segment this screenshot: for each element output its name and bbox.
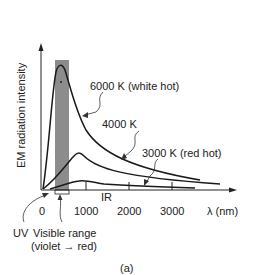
leader-6000k: [85, 92, 103, 115]
curve-3000k: [50, 181, 195, 189]
leader-3000k-arrow-icon: [144, 179, 149, 186]
ir-label: IR: [101, 191, 112, 203]
leader-4000k-arrow-icon: [121, 153, 127, 160]
visible-range-label: Visible range: [33, 227, 96, 239]
visible-range-sublabel: (violet → red): [31, 240, 97, 252]
leader-uv-arrow-icon: [42, 193, 49, 198]
tick-label-2000: 2000: [117, 205, 141, 217]
uv-label: UV: [13, 227, 28, 239]
peak-dot: [60, 81, 62, 83]
leader-6000k-arrow-icon: [82, 112, 88, 118]
leader-visible-arrow-icon: [58, 194, 63, 200]
tick-label-1000: 1000: [74, 205, 98, 217]
label-6000k: 6000 K (white hot): [90, 80, 179, 92]
tick-label-0: 0: [39, 205, 45, 217]
y-axis-label: EM radiation intensity: [15, 63, 27, 168]
y-axis-arrow-icon: [39, 43, 44, 51]
label-3000k: 3000 K (red hot): [142, 147, 222, 159]
visible-bracket: [55, 190, 69, 194]
leader-4000k: [124, 131, 139, 157]
figure-caption: (a): [120, 262, 133, 274]
leader-visible: [60, 197, 62, 222]
tick-label-3000: 3000: [160, 205, 184, 217]
x-axis-label: λ (nm): [207, 205, 238, 217]
x-axis-arrow-icon: [229, 188, 237, 193]
label-4000k: 4000 K: [102, 118, 137, 130]
